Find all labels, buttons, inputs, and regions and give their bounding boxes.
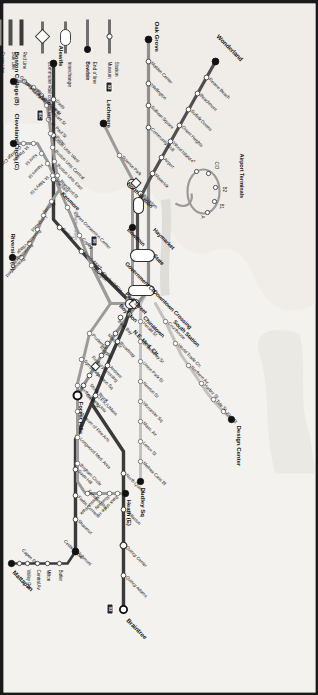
map-screenshot-frame: .rl{stroke:#3a3a3a;stroke-width:3.4;fill… [0,0,318,695]
legend-label-commuter-rail: Commuter Rail connections [46,61,52,120]
highway-shield-93-south: 93 [106,603,113,614]
legend-line-label-red: Red Line [20,51,25,69]
legend-label-station: Station [113,61,118,76]
highway-shield-90: 90 [90,235,97,246]
station-label-central-av: Central Av [34,569,39,589]
legend-line-blue: Blue Line [3,17,14,137]
legend-item-commuter-rail: Commuter Rail connections [29,17,53,137]
airport-stop-b1: B1 [217,203,222,208]
station-label-heath: Heath (E) [125,499,132,525]
airport-terminals-label: Airport Terminals [237,153,243,198]
legend-line-green: Green Line [0,17,3,137]
legend-item-end-of-line: End o' line Bowdoin [75,17,97,137]
airport-stop-cd: C/D [212,161,217,169]
map-legend: Station Museum End o' line Bowdoin Inter… [0,17,119,137]
legend-item-interchange: Interchange [53,17,75,137]
legend-example-bowdoin: Bowdoin [83,61,88,80]
legend-lines: Red Line Blue Line Green Line Orange Lin… [0,17,25,137]
legend-line-label-green: Green Line [0,51,3,73]
legend-label-end-of-line: End o' line [91,61,96,83]
legend-item-station: Station Museum [97,17,119,137]
airport-stop-a: A [198,215,203,218]
legend-label-interchange: Interchange [66,61,71,86]
airport-stop-e: E [188,159,193,162]
airport-stop-b2: B2 [220,186,225,191]
station-label-milton: Milton [44,569,49,581]
charles-river-label: Charles River [72,211,77,240]
transit-map[interactable]: .rl{stroke:#3a3a3a;stroke-width:3.4;fill… [3,3,315,692]
station-label-design-center: Design Center [235,425,241,466]
legend-line-red: Red Line [14,17,25,137]
station-label-butler: Butler [56,569,61,580]
legend-example-museum: Museum [105,61,110,78]
station-label-riverside: Riverside (D) [9,233,16,270]
station-label-oak-grove: Oak Grove [153,21,160,51]
legend-line-label-blue: Blue Line [9,51,14,69]
